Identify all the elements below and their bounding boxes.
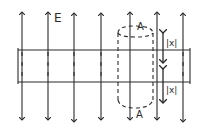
field-lines: [22, 12, 183, 122]
field-label: E: [54, 11, 62, 25]
area-label-bottom: A: [136, 109, 143, 120]
distance-label-top: |x|: [166, 38, 177, 48]
gauss-pillbox-diagram: E A A |x| |x|: [0, 0, 199, 132]
distance-label-bottom: |x|: [166, 85, 177, 95]
area-label-top: A: [137, 21, 144, 32]
charged-plate: [18, 48, 190, 84]
gaussian-pillbox: [118, 26, 153, 108]
